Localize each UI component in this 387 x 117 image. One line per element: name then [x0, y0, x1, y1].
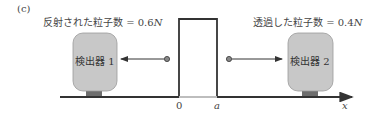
- panel-label: (c): [17, 3, 30, 14]
- axis-x-label: x: [342, 100, 348, 111]
- axis-origin-label: 0: [176, 100, 182, 111]
- reflected-count-label: 反射された粒子数 = 0.6N: [43, 14, 162, 29]
- reflected-particle: [121, 56, 170, 61]
- transmitted-count-symbol: N: [354, 17, 363, 28]
- detector-left-label: 検出器 1: [75, 53, 115, 68]
- reflected-count-symbol: N: [154, 17, 163, 28]
- reflected-count-text: 反射された粒子数 = 0.6: [43, 17, 154, 28]
- detector-right-label: 検出器 2: [290, 53, 330, 68]
- transmitted-count-label: 透過した粒子数 = 0.4N: [253, 14, 362, 29]
- transmitted-count-text: 透過した粒子数 = 0.4: [253, 17, 354, 28]
- transmitted-particle: [226, 56, 282, 61]
- axis-a-label: a: [214, 100, 220, 111]
